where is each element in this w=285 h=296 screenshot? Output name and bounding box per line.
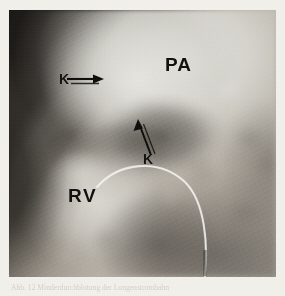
figure-caption-clip: Abb. 12 Minderdurchblutung der Lungenstr… xyxy=(11,283,275,296)
figure-page: PA RV K K Abb. 12 Minderdurchblutung der… xyxy=(0,0,285,296)
xray-film-grain xyxy=(9,10,276,277)
figure-caption: Abb. 12 Minderdurchblutung der Lungenstr… xyxy=(11,283,275,292)
angiogram-image: PA RV K K xyxy=(9,10,276,277)
